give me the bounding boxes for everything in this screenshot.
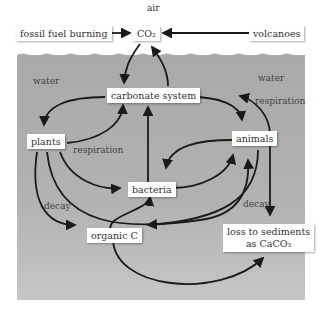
- node-volcanoes: volcanoes: [249, 26, 304, 41]
- node-bacteria: bacteria: [128, 182, 176, 197]
- node-co2: CO₂: [133, 26, 160, 41]
- loss-line1: loss to sediments: [227, 226, 310, 238]
- water-label-left: water: [33, 76, 59, 86]
- decay-label-left: decay: [44, 201, 71, 211]
- water-label-right: water: [258, 73, 284, 83]
- node-carbonate-system: carbonate system: [107, 88, 200, 103]
- decay-label-right: decay: [243, 199, 270, 209]
- loss-line2: as CaCO₃: [227, 238, 310, 250]
- respiration-label-animals: respiration: [255, 96, 305, 106]
- flow-arrows: [0, 0, 321, 312]
- node-plants: plants: [27, 134, 65, 149]
- node-loss-to-sediments: loss to sediments as CaCO₃: [223, 224, 314, 252]
- node-organic-c: organic C: [87, 228, 142, 243]
- node-fossil-fuel-burning: fossil fuel burning: [16, 26, 112, 41]
- node-animals: animals: [232, 131, 277, 146]
- respiration-label-plants: respiration: [73, 145, 123, 155]
- air-label: air: [147, 3, 160, 13]
